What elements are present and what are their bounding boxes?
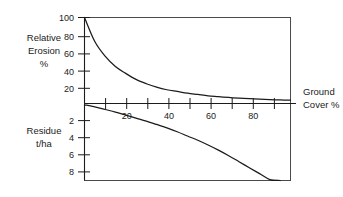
y-tick-label-60: 60: [64, 49, 74, 59]
x-tick-label-40: 40: [164, 111, 174, 121]
ground-cover-axis-title-line1: Ground: [303, 86, 335, 97]
residue-axis-title-line1: Residue: [27, 125, 62, 136]
y-tick-label-100: 100: [59, 13, 74, 23]
y-tick-label-80: 80: [64, 32, 74, 42]
chart-canvas: 100 80 60 40 20 2 4 6 8 20 40 60 80 Rela…: [0, 0, 343, 197]
y-tick-label-residue-2: 2: [69, 116, 74, 126]
x-tick-label-80: 80: [248, 111, 258, 121]
x-tick-label-60: 60: [206, 111, 216, 121]
ground-cover-axis-title-line2: Cover %: [303, 99, 340, 110]
y-tick-label-20: 20: [64, 84, 74, 94]
relative-erosion-axis-title-line1: Relative: [27, 32, 61, 43]
relative-erosion-axis-title-line2: Erosion: [28, 45, 60, 56]
y-tick-label-residue-8: 8: [69, 167, 74, 177]
y-tick-label-residue-6: 6: [69, 150, 74, 160]
y-tick-label-residue-4: 4: [69, 133, 74, 143]
residue-axis-title-line2: t/ha: [36, 138, 53, 149]
chart-background: [0, 0, 343, 197]
x-tick-label-20: 20: [122, 111, 132, 121]
y-tick-label-40: 40: [64, 67, 74, 77]
relative-erosion-axis-title-line3: %: [40, 58, 49, 69]
erosion-residue-chart: 100 80 60 40 20 2 4 6 8 20 40 60 80 Rela…: [0, 0, 343, 197]
